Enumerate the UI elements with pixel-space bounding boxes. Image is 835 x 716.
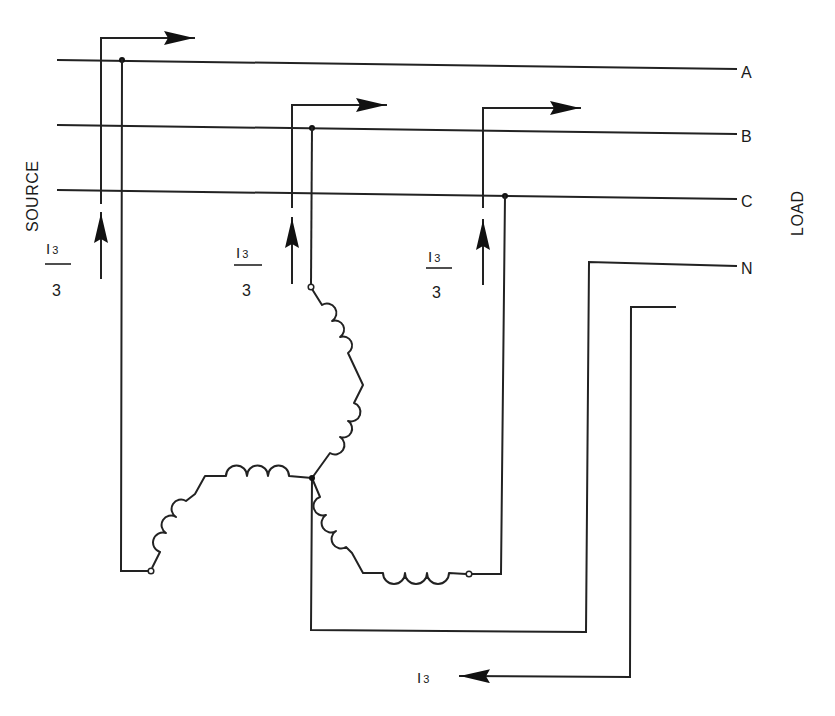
load-label: LOAD xyxy=(789,190,806,236)
neutral-line xyxy=(311,262,736,632)
svg-text:I3: I3 xyxy=(46,240,58,257)
line-label-a: A xyxy=(741,64,752,81)
frac-b-numerator: I xyxy=(236,244,240,261)
phase-c-current-label: I3 3 xyxy=(426,248,452,301)
i3-symbol: I xyxy=(417,669,421,686)
line-label-n: N xyxy=(741,260,753,277)
i3-subscript: 3 xyxy=(423,673,429,685)
phase-line-b xyxy=(58,125,736,134)
terminal-c xyxy=(466,571,472,577)
line-label-c: C xyxy=(741,193,753,210)
frac-c-numerator: I xyxy=(428,248,432,265)
phase-b-current-label: I3 3 xyxy=(234,244,262,299)
frac-a-denominator: 3 xyxy=(52,282,61,299)
phase-a-current-path xyxy=(101,38,194,571)
svg-text:I3: I3 xyxy=(236,244,248,261)
terminal-a xyxy=(148,568,154,574)
winding-c-coil xyxy=(312,478,472,584)
frac-b-denominator: 3 xyxy=(242,282,251,299)
frac-b-subscript: 3 xyxy=(242,248,248,260)
phase-c-current-path xyxy=(472,108,580,574)
neutral-node-dot xyxy=(309,475,315,481)
winding-b-coil xyxy=(308,284,363,478)
source-label: SOURCE xyxy=(24,161,41,232)
frac-c-subscript: 3 xyxy=(434,252,440,264)
frac-a-subscript: 3 xyxy=(52,244,58,256)
i3-return-path xyxy=(460,307,675,677)
phase-line-c xyxy=(58,190,736,199)
svg-text:I3: I3 xyxy=(428,248,440,265)
phase-line-a xyxy=(58,60,736,69)
wye-winding-diagram: A B C N SOURCE LOAD I3 3 I3 3 I3 3 xyxy=(0,0,835,716)
i3-label: I3 xyxy=(417,669,429,686)
line-label-b: B xyxy=(741,128,752,145)
winding-a-coil xyxy=(148,466,312,574)
frac-a-numerator: I xyxy=(46,240,50,257)
frac-c-denominator: 3 xyxy=(432,284,441,301)
phase-a-current-label: I3 3 xyxy=(45,240,71,299)
